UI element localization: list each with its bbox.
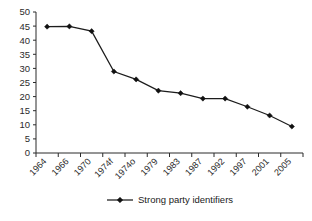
x-tick-label: 1979 bbox=[139, 156, 160, 177]
data-point-marker bbox=[156, 88, 161, 93]
data-point-marker bbox=[200, 96, 205, 101]
y-tick-label: 0 bbox=[25, 147, 30, 158]
data-point-marker bbox=[289, 124, 294, 129]
y-tick-label: 40 bbox=[19, 35, 30, 46]
y-tick-label: 45 bbox=[19, 21, 30, 32]
series-line-1 bbox=[47, 26, 292, 126]
data-point-marker bbox=[134, 77, 139, 82]
legend-marker-icon bbox=[117, 197, 123, 203]
y-tick-label: 35 bbox=[19, 49, 30, 60]
data-point-marker bbox=[223, 96, 228, 101]
data-point-marker bbox=[178, 91, 183, 96]
x-tick-label: 2001 bbox=[250, 156, 271, 177]
x-tick-label: 2005 bbox=[272, 156, 293, 177]
y-tick-label: 20 bbox=[19, 91, 30, 102]
x-tick-label: 1964 bbox=[27, 156, 48, 177]
x-tick-label: 1997 bbox=[228, 156, 249, 177]
data-point-marker bbox=[245, 104, 250, 109]
chart-container: 504540353025201510501964196619701974f197… bbox=[0, 0, 312, 221]
y-tick-label: 5 bbox=[25, 133, 30, 144]
x-tick-label: 1970 bbox=[72, 156, 93, 177]
data-point-marker bbox=[45, 24, 50, 29]
data-point-marker bbox=[89, 29, 94, 34]
x-tick-label: 1983 bbox=[161, 156, 182, 177]
x-tick-label: 1966 bbox=[50, 156, 71, 177]
data-point-marker bbox=[67, 24, 72, 29]
legend-label: Strong party identifiers bbox=[138, 194, 233, 205]
x-tick-label: 1974f bbox=[92, 156, 115, 179]
y-tick-label: 50 bbox=[19, 6, 30, 17]
x-tick-label: 1987 bbox=[183, 156, 204, 177]
y-tick-label: 30 bbox=[19, 63, 30, 74]
y-tick-label: 15 bbox=[19, 105, 30, 116]
y-tick-label: 25 bbox=[19, 77, 30, 88]
line-chart: 504540353025201510501964196619701974f197… bbox=[0, 0, 312, 221]
data-point-marker bbox=[111, 69, 116, 74]
x-tick-label: 1992 bbox=[205, 156, 226, 177]
y-tick-label: 10 bbox=[19, 119, 30, 130]
data-point-marker bbox=[267, 113, 272, 118]
x-tick-label: 1974o bbox=[113, 156, 138, 181]
